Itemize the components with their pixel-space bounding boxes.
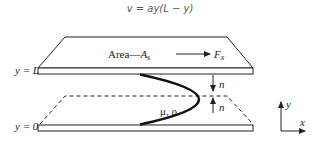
x-axis-label: x bbox=[299, 116, 305, 128]
y-equals-0-label: y = 0 bbox=[14, 120, 39, 132]
bottom-plate bbox=[38, 125, 253, 131]
normal-label-bottom: n bbox=[219, 101, 225, 113]
velocity-equation: v = ay(L − y) bbox=[127, 3, 194, 14]
fluid-properties-label: μ, ρ bbox=[160, 105, 177, 117]
velocity-profile-curve bbox=[140, 75, 199, 125]
y-equals-L-label: y = L bbox=[14, 64, 39, 76]
coordinate-axes: y x bbox=[281, 98, 305, 131]
y-axis-label: y bbox=[285, 98, 291, 110]
normal-label-top: n bbox=[219, 78, 225, 90]
area-label: Area—As bbox=[108, 48, 150, 62]
couette-flow-diagram: v = ay(L − y) Area—As Fx μ, ρ n n y = L … bbox=[0, 0, 319, 146]
